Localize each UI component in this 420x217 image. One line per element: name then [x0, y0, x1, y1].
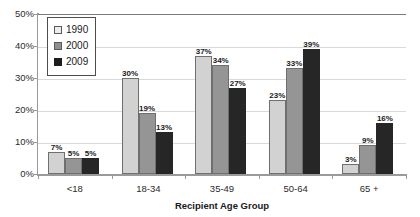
bar-value-label: 23%: [269, 92, 285, 100]
y-axis-tick-mark: [33, 14, 38, 15]
y-axis-tick-mark: [33, 46, 38, 47]
bar-value-label: 27%: [230, 80, 246, 88]
bar-value-label: 16%: [377, 115, 393, 123]
legend-label-2009: 2009: [66, 57, 88, 67]
bar: 30%: [122, 78, 139, 174]
bar-value-label: 3%: [345, 156, 357, 164]
y-axis-tick-labels: 0%10%20%30%40%50%: [0, 14, 34, 174]
legend-swatch-2009-icon: [54, 58, 62, 66]
legend: 1990 2000 2009: [47, 17, 96, 76]
bar-value-label: 34%: [213, 57, 229, 65]
legend-item: 2000: [54, 38, 88, 54]
y-axis-tick-label: 40%: [0, 41, 34, 51]
bar-value-label: 7%: [51, 144, 63, 152]
bar: 19%: [139, 113, 156, 174]
bar-value-label: 33%: [286, 60, 302, 68]
bar: 5%: [65, 158, 82, 174]
bar: 34%: [212, 65, 229, 174]
x-axis-category-labels: <1818-3435-4950-6465 +: [38, 174, 406, 200]
y-axis-tick-label: 30%: [0, 73, 34, 83]
x-axis-tick-mark: [185, 174, 186, 179]
bar-value-label: 5%: [68, 150, 80, 158]
legend-label-1990: 1990: [66, 25, 88, 35]
bar-group: 3%9%16%: [332, 14, 406, 174]
y-axis-tick-label: 0%: [0, 169, 34, 179]
x-axis-title: Recipient Age Group: [38, 201, 406, 211]
legend-swatch-1990-icon: [54, 26, 62, 34]
legend-swatch-2000-icon: [54, 42, 62, 50]
bar: 13%: [156, 132, 173, 174]
bar-value-label: 9%: [362, 137, 374, 145]
x-axis-tick-mark: [259, 174, 260, 179]
y-axis-tick-label: 50%: [0, 9, 34, 19]
x-axis-category-label: 65 +: [360, 184, 379, 194]
bar-group: 37%34%27%: [185, 14, 259, 174]
x-axis-category-label: 18-34: [136, 184, 160, 194]
legend-label-2000: 2000: [66, 41, 88, 51]
bar: 16%: [376, 123, 393, 174]
bar: 27%: [229, 88, 246, 174]
x-axis-tick-mark: [112, 174, 113, 179]
bar-value-label: 5%: [85, 150, 97, 158]
y-axis-tick-mark: [33, 174, 38, 175]
x-axis-tick-mark: [406, 174, 407, 179]
y-axis-tick-mark: [33, 142, 38, 143]
bar-group: 30%19%13%: [112, 14, 186, 174]
legend-item: 1990: [54, 22, 88, 38]
bar-value-label: 37%: [196, 48, 212, 56]
x-axis-category-label: 50-64: [283, 184, 307, 194]
bar: 39%: [303, 49, 320, 174]
bar: 23%: [269, 100, 286, 174]
x-axis-category-label: <18: [67, 184, 83, 194]
bar: 3%: [342, 164, 359, 174]
bar: 7%: [48, 152, 65, 174]
bar-chart: 0%10%20%30%40%50% 7%5%5%30%19%13%37%34%2…: [0, 0, 420, 217]
bar: 37%: [195, 56, 212, 174]
x-axis-tick-mark: [38, 174, 39, 179]
bar-value-label: 13%: [156, 124, 172, 132]
bar: 5%: [82, 158, 99, 174]
legend-item: 2009: [54, 54, 88, 70]
y-axis-tick-mark: [33, 110, 38, 111]
y-axis-tick-label: 10%: [0, 137, 34, 147]
y-axis-tick-label: 20%: [0, 105, 34, 115]
x-axis-tick-mark: [332, 174, 333, 179]
bar: 9%: [359, 145, 376, 174]
bar-value-label: 39%: [303, 41, 319, 49]
bar-value-label: 30%: [122, 70, 138, 78]
bar-value-label: 19%: [139, 105, 155, 113]
y-axis-tick-mark: [33, 78, 38, 79]
bar-group: 23%33%39%: [259, 14, 333, 174]
x-axis-category-label: 35-49: [210, 184, 234, 194]
bar: 33%: [286, 68, 303, 174]
